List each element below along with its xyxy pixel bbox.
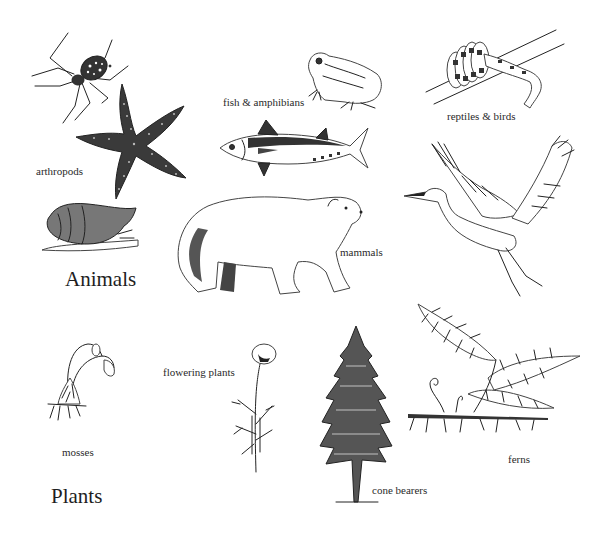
- cone-bearers-label: cone bearers: [372, 484, 427, 496]
- mosses-label: mosses: [62, 446, 94, 458]
- animals-heading: Animals: [65, 267, 136, 292]
- snake-illustration: [426, 30, 566, 108]
- fish-amphibians-label: fish & amphibians: [223, 96, 304, 108]
- fern-illustration: [404, 300, 582, 436]
- mammals-label: mammals: [340, 246, 383, 258]
- classification-figure: arthropods fish & amphibians: [0, 0, 613, 540]
- arthropods-label: arthropods: [36, 165, 83, 177]
- tuna-illustration: [218, 118, 370, 180]
- ferns-label: ferns: [508, 453, 530, 465]
- polar-bear-illustration: [168, 188, 366, 298]
- frog-illustration: [305, 48, 385, 110]
- plants-heading: Plants: [51, 484, 102, 509]
- conifer-illustration: [316, 326, 396, 506]
- moss-illustration: [44, 338, 116, 420]
- egret-illustration: [402, 136, 578, 302]
- poppy-illustration: [226, 344, 276, 474]
- flowering-plants-label: flowering plants: [163, 366, 235, 378]
- starfish-illustration: [74, 84, 189, 199]
- reptiles-birds-label: reptiles & birds: [447, 110, 515, 122]
- snail-illustration: [38, 200, 143, 252]
